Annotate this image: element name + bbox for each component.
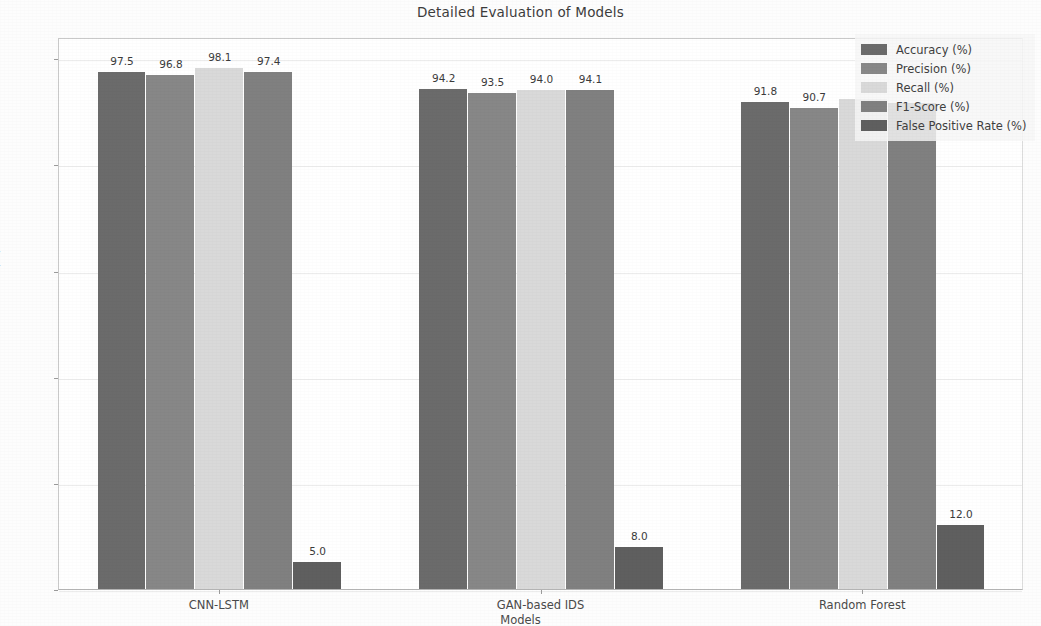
legend-item[interactable]: Accuracy (%)	[861, 40, 1031, 59]
y-tick-mark	[54, 484, 58, 485]
legend-label: Recall (%)	[896, 81, 954, 95]
y-tick-mark	[54, 165, 58, 166]
bar-value-label: 94.1	[579, 73, 602, 85]
bar-value-label: 90.7	[803, 91, 826, 103]
bar	[419, 89, 467, 589]
y-tick-mark	[54, 378, 58, 379]
bar	[195, 68, 243, 589]
y-tick-mark	[54, 590, 58, 591]
legend-label: False Positive Rate (%)	[896, 119, 1026, 133]
bar	[741, 102, 789, 589]
bar-value-label: 97.4	[257, 55, 280, 67]
bar	[839, 99, 887, 589]
x-tick-mark	[219, 590, 220, 594]
chart-title: Detailed Evaluation of Models	[0, 4, 1041, 20]
legend-item[interactable]: Recall (%)	[861, 78, 1031, 97]
bar	[98, 72, 146, 590]
bar	[937, 525, 985, 589]
legend-swatch	[861, 44, 887, 55]
bar-value-label: 12.0	[949, 508, 972, 520]
x-tick-label: GAN-based IDS	[421, 598, 661, 612]
y-tick-mark	[54, 272, 58, 273]
y-axis-label: Metrics (%)	[0, 249, 2, 314]
bar-value-label: 94.0	[530, 73, 553, 85]
bar	[888, 103, 936, 589]
legend-label: Accuracy (%)	[896, 43, 972, 57]
bar	[517, 90, 565, 589]
x-tick-mark	[862, 590, 863, 594]
bar-value-label: 96.8	[159, 58, 182, 70]
legend-label: F1-Score (%)	[896, 100, 970, 114]
legend-swatch	[861, 63, 887, 74]
bar-value-label: 94.2	[432, 72, 455, 84]
figure-canvas: Detailed Evaluation of Models 97.596.898…	[0, 0, 1041, 626]
legend-item[interactable]: False Positive Rate (%)	[861, 116, 1031, 135]
bar-value-label: 98.1	[208, 51, 231, 63]
x-axis-label: Models	[0, 613, 1041, 626]
bar	[146, 75, 194, 589]
legend-swatch	[861, 120, 887, 131]
bar-value-label: 93.5	[481, 76, 504, 88]
x-tick-mark	[541, 590, 542, 594]
x-tick-label: CNN-LSTM	[99, 598, 339, 612]
bar	[468, 93, 516, 589]
bar	[790, 108, 838, 589]
bar-value-label: 5.0	[309, 545, 326, 557]
legend-swatch	[861, 101, 887, 112]
bar-value-label: 8.0	[631, 530, 648, 542]
legend-label: Precision (%)	[896, 62, 971, 76]
legend-swatch	[861, 82, 887, 93]
bar	[566, 90, 614, 589]
legend-item[interactable]: Precision (%)	[861, 59, 1031, 78]
bar-value-label: 91.8	[754, 85, 777, 97]
legend-item[interactable]: F1-Score (%)	[861, 97, 1031, 116]
bar-value-label: 97.5	[110, 55, 133, 67]
legend[interactable]: Accuracy (%)Precision (%)Recall (%)F1-Sc…	[855, 34, 1035, 141]
bar	[244, 72, 292, 589]
x-tick-label: Random Forest	[742, 598, 982, 612]
bar	[293, 562, 341, 589]
y-tick-mark	[54, 59, 58, 60]
bar	[615, 547, 663, 589]
